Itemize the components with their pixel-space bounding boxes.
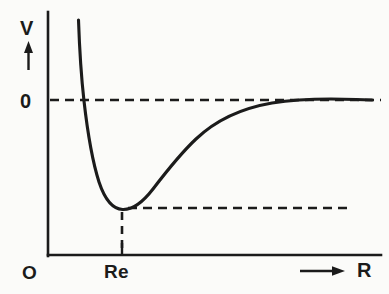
potential-energy-curve: [79, 20, 373, 210]
plot-canvas: [0, 0, 389, 294]
equilibrium-distance-label: Re: [104, 261, 129, 283]
zero-level-label: 0: [20, 90, 31, 113]
right-arrow-icon: [300, 266, 345, 276]
x-axis-label: R: [357, 259, 372, 282]
origin-label: O: [22, 262, 37, 284]
potential-energy-diagram: V 0 O Re R: [0, 0, 389, 294]
y-axis-label: V: [20, 17, 34, 40]
up-arrow-icon: [24, 41, 33, 70]
